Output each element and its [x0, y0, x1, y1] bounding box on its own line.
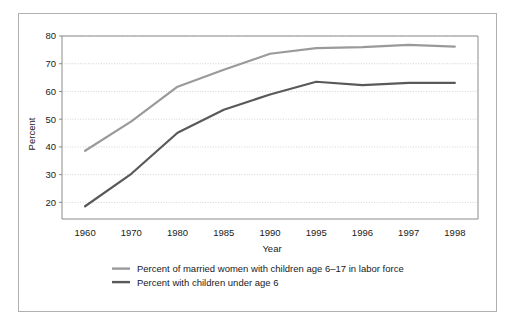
y-tick-label: 50	[45, 114, 56, 125]
y-tick-label: 40	[45, 141, 56, 152]
series-line-1	[85, 82, 455, 207]
x-axis-title: Year	[262, 243, 281, 254]
y-tick-label: 60	[45, 86, 56, 97]
y-tick-label: 20	[45, 197, 56, 208]
x-axis-tick-labels: 196019701980198519901995199619971998	[75, 227, 466, 238]
y-axis-title: Percent	[26, 117, 37, 150]
x-tick-label: 1990	[259, 227, 280, 238]
chart-legend: Percent of married women with children a…	[112, 263, 404, 288]
x-tick-label: 1998	[444, 227, 465, 238]
y-tick-label: 30	[45, 169, 56, 180]
line-chart: 20304050607080 1960197019801985199019951…	[19, 14, 498, 313]
x-tick-label: 1970	[121, 227, 142, 238]
legend-label-0: Percent of married women with children a…	[137, 263, 404, 274]
y-tick-label: 70	[45, 58, 56, 69]
x-tick-label: 1997	[398, 227, 419, 238]
chart-figure: 20304050607080 1960197019801985199019951…	[18, 13, 497, 312]
x-tick-label: 1985	[213, 227, 234, 238]
x-tick-label: 1995	[306, 227, 327, 238]
legend-label-1: Percent with children under age 6	[137, 277, 279, 288]
x-tick-label: 1980	[167, 227, 188, 238]
x-tick-label: 1996	[352, 227, 373, 238]
x-tick-label: 1960	[75, 227, 96, 238]
series-line-group	[85, 45, 455, 206]
series-line-0	[85, 45, 455, 151]
y-axis-tick-labels: 20304050607080	[45, 30, 56, 207]
y-tick-label: 80	[45, 30, 56, 41]
